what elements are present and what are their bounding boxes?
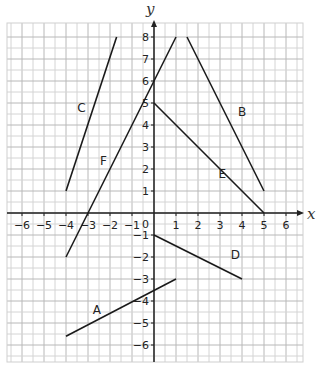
y-tick-label: −3	[133, 273, 149, 286]
y-tick-label: 3	[142, 141, 149, 154]
y-tick-label: 6	[142, 75, 149, 88]
y-tick-label: 8	[142, 31, 149, 44]
x-tick-label: 6	[283, 219, 290, 232]
x-tick-label: 4	[239, 219, 246, 232]
grid-border	[7, 23, 303, 362]
x-tick-label: 5	[261, 219, 268, 232]
y-tick-label: 4	[142, 119, 149, 132]
grid	[7, 23, 303, 362]
x-tick-label: 3	[217, 219, 224, 232]
y-tick-label: −2	[133, 251, 149, 264]
x-tick-label: −5	[36, 219, 52, 232]
line-label: F	[100, 154, 107, 168]
y-tick-label: −5	[133, 317, 149, 330]
y-axis-label: y	[145, 0, 155, 18]
y-tick-label: 1	[142, 185, 149, 198]
y-tick-label: 2	[142, 163, 149, 176]
y-tick-label: −6	[133, 339, 149, 352]
x-tick-label: −4	[58, 219, 74, 232]
line-label: C	[77, 101, 85, 115]
x-tick-label: −6	[14, 219, 30, 232]
x-tick-label: 1	[173, 219, 180, 232]
x-tick-label: 2	[195, 219, 202, 232]
graph: −6−5−4−3−2−112345687654321−1−2−3−4−5−60 …	[0, 0, 319, 367]
x-axis-label: x	[307, 205, 316, 223]
line-label: B	[238, 105, 246, 119]
y-tick-label: 7	[142, 53, 149, 66]
line-label: A	[93, 303, 102, 317]
line-label: D	[231, 248, 240, 262]
line-label: E	[218, 167, 226, 181]
x-tick-label: −2	[102, 219, 118, 232]
origin-label: 0	[142, 218, 149, 231]
